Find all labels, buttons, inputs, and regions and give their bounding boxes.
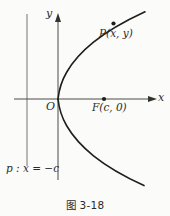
curve-point-marker bbox=[111, 21, 115, 25]
parabola-figure: y x O F(c, 0) P(x, y) p : x = −c 图 3-18 bbox=[0, 0, 170, 216]
directrix-label: p : x = −c bbox=[6, 163, 59, 174]
x-axis-arrow-icon bbox=[148, 96, 157, 102]
y-axis-arrow-icon bbox=[55, 13, 61, 22]
focus-label: F(c, 0) bbox=[92, 102, 127, 113]
curve-point-label: P(x, y) bbox=[99, 28, 133, 39]
figure-caption: 图 3-18 bbox=[0, 197, 170, 212]
parabola-upper-branch bbox=[58, 12, 145, 99]
y-axis-label: y bbox=[46, 8, 52, 19]
diagram-canvas bbox=[0, 0, 170, 216]
origin-label: O bbox=[46, 101, 55, 112]
x-axis-label: x bbox=[158, 92, 164, 103]
